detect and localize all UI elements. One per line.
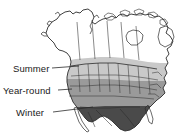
region-unshaded xyxy=(30,0,186,60)
region-winter xyxy=(30,106,186,137)
region-summer xyxy=(30,57,186,82)
legend-label-winter: Winter xyxy=(16,108,44,118)
region-year-round xyxy=(30,79,186,108)
legend-label-year-round: Year-round xyxy=(3,86,51,96)
climate-bands xyxy=(30,0,186,137)
legend-label-summer: Summer xyxy=(13,64,50,74)
